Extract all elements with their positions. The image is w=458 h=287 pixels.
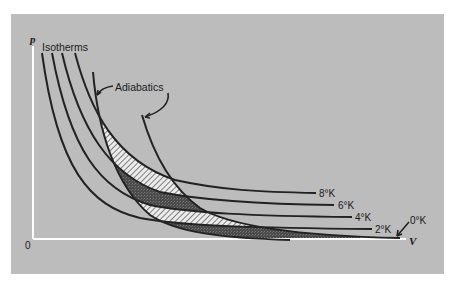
adiabatics-annotation: Adiabatics (115, 81, 163, 93)
isotherm-label-8K: 8°K (319, 188, 336, 199)
isotherm-label-6K: 6°K (338, 200, 355, 211)
origin-label: 0 (25, 240, 31, 251)
p-axis-label: p (29, 33, 36, 45)
isotherm-label-4K: 4°K (355, 212, 372, 223)
isotherm-label-0K: 0°K (410, 215, 427, 226)
isotherm-label-2K: 2°K (375, 224, 392, 235)
isotherm-adiabatic-diagram: p Isotherms Adiabatics 0 V 8°K 6°K 4°K 2… (0, 0, 458, 287)
isotherms-annotation: Isotherms (42, 41, 88, 53)
